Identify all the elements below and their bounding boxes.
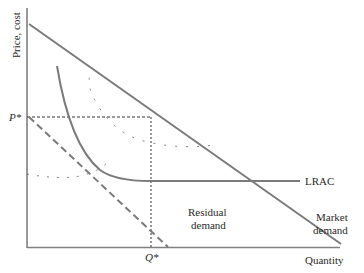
residual-demand-label-line1: Residual: [188, 206, 227, 218]
lrac-curve: [57, 66, 300, 181]
market-demand-label-line1: Market: [316, 211, 348, 223]
p-star-label: P*: [8, 111, 22, 123]
residual-demand-label-line2: demand: [191, 219, 226, 231]
economics-diagram: Price, cost Quantity P* Q* LRAC Residual…: [0, 0, 364, 273]
y-axis-label: Price, cost: [10, 12, 22, 58]
lrac-label: LRAC: [305, 175, 334, 187]
residual-demand-curve: [29, 117, 168, 247]
market-demand-label-line2: demand: [313, 224, 348, 236]
x-axis-label: Quantity: [305, 254, 344, 266]
q-star-label: Q*: [145, 251, 159, 263]
faint-dashed-curve-lower: [27, 162, 108, 178]
